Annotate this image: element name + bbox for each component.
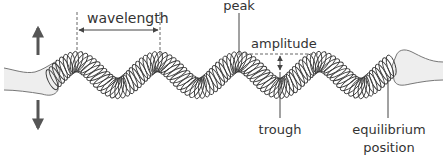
- wavelength-label: wavelength: [87, 11, 169, 25]
- right-hand-icon: [392, 50, 443, 85]
- peak-label: peak: [223, 0, 255, 12]
- equilibrium-label-line1: equilibrium: [352, 123, 425, 136]
- trough-label: trough: [259, 123, 302, 136]
- equilibrium-label-line2: position: [363, 141, 415, 154]
- wave-diagram: wavelength peak amplitude trough equilib…: [0, 0, 447, 158]
- spring-coil: [44, 50, 399, 99]
- amplitude-label: amplitude: [251, 37, 317, 50]
